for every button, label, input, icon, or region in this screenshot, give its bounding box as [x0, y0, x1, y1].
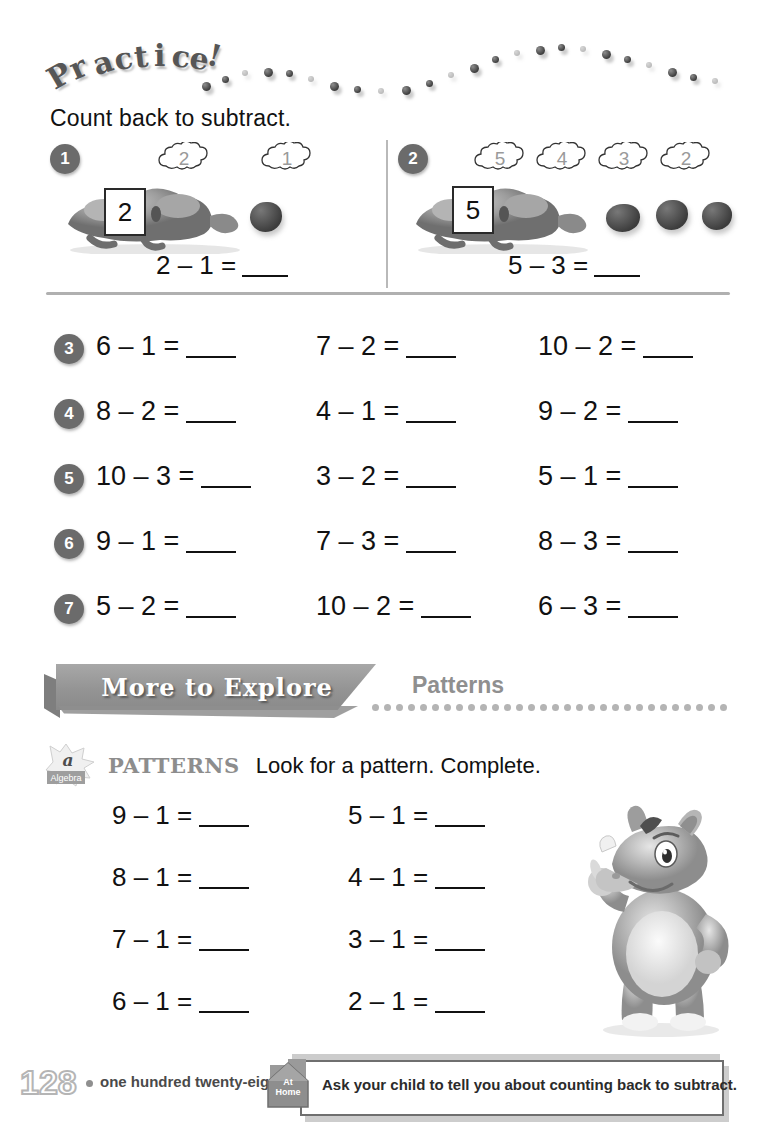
answer-blank[interactable] [199, 949, 249, 951]
problem-item: 7 – 3 = [316, 526, 456, 557]
underline-dot [600, 704, 607, 711]
answer-blank[interactable] [628, 551, 678, 553]
answer-blank[interactable] [199, 887, 249, 889]
answer-blank[interactable] [628, 486, 678, 488]
page-number-words: one hundred twenty-eight [100, 1073, 283, 1090]
patterns-instruction: PATTERNS Look for a pattern. Complete. [108, 753, 541, 779]
problem-expression: 3 – 2 = [316, 461, 399, 491]
problem-row: 48 – 2 =4 – 1 =9 – 2 = [48, 391, 738, 456]
problem-list: 36 – 1 =7 – 2 =10 – 2 =48 – 2 =4 – 1 =9 … [48, 326, 738, 651]
cloud-number: 2 [156, 142, 212, 176]
count-back-cloud: 2 [658, 142, 714, 176]
pattern-row: 7 – 1 =3 – 1 = [100, 924, 560, 986]
pattern-expression: 2 – 1 = [348, 986, 428, 1016]
answer-blank[interactable] [421, 616, 471, 618]
problem-expression: 10 – 2 = [538, 331, 636, 361]
answer-blank[interactable] [186, 421, 236, 423]
pattern-expression: 4 – 1 = [348, 862, 428, 892]
trail-dot [602, 50, 611, 59]
pattern-row: 8 – 1 =4 – 1 = [100, 862, 560, 924]
answer-blank[interactable] [594, 275, 640, 277]
cloud-number: 3 [596, 142, 652, 176]
trail-dot [286, 70, 293, 77]
answer-blank[interactable] [406, 486, 456, 488]
underline-dot [444, 704, 451, 711]
answer-blank[interactable] [199, 825, 249, 827]
problem-expression: 6 – 1 = [96, 331, 179, 361]
problem-item: 10 – 2 = [316, 591, 471, 622]
underline-dot [516, 704, 523, 711]
answer-blank[interactable] [186, 551, 236, 553]
answer-blank[interactable] [199, 1011, 249, 1013]
athome-message: Ask your child to tell you about countin… [322, 1076, 737, 1093]
underline-dot [720, 704, 727, 711]
pattern-item: 4 – 1 = [348, 862, 485, 893]
answer-blank[interactable] [435, 949, 485, 951]
answer-blank[interactable] [201, 486, 251, 488]
answer-blank[interactable] [628, 421, 678, 423]
problem-row: 75 – 2 =10 – 2 =6 – 3 = [48, 586, 738, 651]
algebra-icon: a Algebra [44, 742, 96, 788]
trail-dot [242, 70, 248, 76]
problem-item: 4 – 1 = [316, 396, 456, 427]
underline-dot [648, 704, 655, 711]
clay-bean [606, 204, 640, 232]
problem-expression: 7 – 3 = [316, 526, 399, 556]
underline-dot [528, 704, 535, 711]
answer-blank[interactable] [406, 551, 456, 553]
problem-badge: 4 [54, 399, 84, 429]
banner-label: More to Explore [72, 664, 362, 710]
problem-badge: 5 [54, 464, 84, 494]
answer-blank[interactable] [628, 616, 678, 618]
pattern-expression: 6 – 1 = [112, 986, 192, 1016]
underline-dot [540, 704, 547, 711]
answer-blank[interactable] [406, 356, 456, 358]
practice-letter: t [132, 38, 149, 74]
trail-dot [580, 46, 586, 52]
model-problem-2: 2 5 4 3 2 [394, 138, 730, 293]
practice-letter: i [154, 38, 165, 73]
model-divider [386, 140, 388, 288]
trail-dot [330, 82, 339, 91]
pattern-expression: 7 – 1 = [112, 924, 192, 954]
answer-blank[interactable] [406, 421, 456, 423]
underline-dot [576, 704, 583, 711]
trail-dot [492, 56, 499, 63]
dotted-underline [372, 704, 728, 712]
answer-blank[interactable] [435, 825, 485, 827]
underline-dot [384, 704, 391, 711]
problem-item: 3 – 2 = [316, 461, 456, 492]
worksheet-page: Practice! Count back to subtract. 1 2 1 [0, 0, 776, 1128]
problem-item: 5 – 2 = [96, 591, 236, 622]
underline-dot [492, 704, 499, 711]
trail-dot [402, 86, 411, 95]
clay-bean [250, 202, 282, 232]
clay-bean [702, 202, 732, 230]
problem-item: 10 – 3 = [96, 461, 251, 492]
answer-blank[interactable] [435, 887, 485, 889]
underline-dot [588, 704, 595, 711]
pattern-item: 2 – 1 = [348, 986, 485, 1017]
answer-blank[interactable] [435, 1011, 485, 1013]
underline-dot [684, 704, 691, 711]
answer-blank[interactable] [186, 616, 236, 618]
problem-expression: 9 – 2 = [538, 396, 621, 426]
count-back-cloud: 3 [596, 142, 652, 176]
pattern-item: 7 – 1 = [112, 924, 249, 955]
answer-blank[interactable] [242, 275, 288, 277]
trail-dot [202, 82, 211, 91]
pattern-expression: 8 – 1 = [112, 862, 192, 892]
trail-dot [222, 76, 229, 83]
problem-badge: 7 [54, 594, 84, 624]
answer-blank[interactable] [643, 356, 693, 358]
pattern-expression: 3 – 1 = [348, 924, 428, 954]
pattern-item: 9 – 1 = [112, 800, 249, 831]
problem-item: 8 – 2 = [96, 396, 236, 427]
trail-dot [264, 68, 273, 77]
underline-dot [468, 704, 475, 711]
rhino-character [566, 802, 756, 1037]
pattern-row: 6 – 1 =2 – 1 = [100, 986, 560, 1048]
instruction-text: Count back to subtract. [50, 105, 291, 132]
answer-blank[interactable] [186, 356, 236, 358]
model-equation: 5 – 3 = [508, 250, 640, 281]
